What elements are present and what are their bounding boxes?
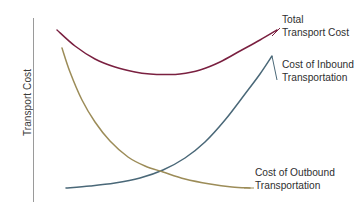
series-label-outbound-line2: Transportation (255, 180, 335, 193)
series-line-inbound (66, 56, 272, 188)
series-line-total (57, 30, 277, 75)
y-axis-title: Transport Cost (22, 53, 33, 153)
series-label-outbound: Cost of Outbound Transportation (255, 167, 335, 192)
series-label-inbound: Cost of Inbound Transportation (282, 59, 354, 84)
series-label-total-line2: Transport Cost (282, 27, 349, 40)
series-label-outbound-line1: Cost of Outbound (255, 167, 335, 178)
series-line-outbound (62, 48, 250, 188)
series-label-total-line1: Total (282, 14, 304, 25)
leader-line-inbound (272, 56, 277, 80)
transport-cost-chart: Transport Cost Total Transport Cost Cost… (0, 0, 362, 202)
series-label-inbound-line1: Cost of Inbound (282, 59, 354, 70)
series-label-total: Total Transport Cost (282, 14, 349, 39)
series-label-inbound-line2: Transportation (282, 72, 354, 85)
